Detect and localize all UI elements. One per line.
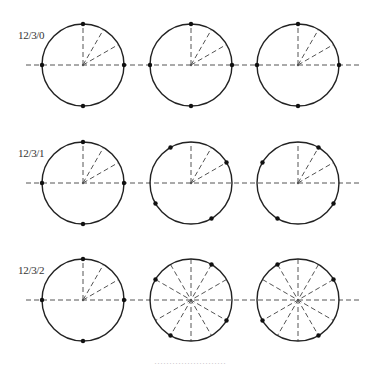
spoke-line <box>191 45 227 66</box>
marker-dot <box>122 298 126 302</box>
spoke-line <box>83 264 104 300</box>
spoke-line <box>298 29 319 65</box>
marker-dot <box>230 63 234 67</box>
marker-dot <box>153 201 157 205</box>
marker-dot <box>296 22 300 26</box>
center-point <box>82 299 84 301</box>
spoke-line <box>298 45 334 66</box>
spoke-line <box>83 45 119 66</box>
spoke-line <box>191 29 212 65</box>
marker-dot <box>189 104 193 108</box>
marker-dot <box>260 318 264 322</box>
marker-dot <box>148 63 152 67</box>
marker-dot <box>40 298 44 302</box>
spoke-line <box>191 163 227 184</box>
marker-dot <box>40 63 44 67</box>
marker-dot <box>81 257 85 261</box>
marker-dot <box>275 262 279 266</box>
marker-dot <box>260 160 264 164</box>
center-point <box>82 64 84 66</box>
marker-dot <box>153 277 157 281</box>
marker-dot <box>331 201 335 205</box>
marker-dot <box>81 140 85 144</box>
marker-dot <box>122 181 126 185</box>
marker-dot <box>168 333 172 337</box>
marker-dot <box>296 104 300 108</box>
row-label-2: 12/3/2 <box>18 264 44 276</box>
marker-dot <box>81 339 85 343</box>
center-point <box>297 299 299 301</box>
center-point <box>82 182 84 184</box>
marker-dot <box>316 145 320 149</box>
marker-dot <box>255 63 259 67</box>
spoke-line <box>83 29 104 65</box>
row-label-1: 12/3/1 <box>18 147 44 159</box>
center-point <box>190 299 192 301</box>
marker-dot <box>275 216 279 220</box>
marker-dot <box>40 181 44 185</box>
marker-dot <box>224 160 228 164</box>
spoke-line <box>83 163 119 184</box>
circle-diagram <box>0 0 371 366</box>
marker-dot <box>337 63 341 67</box>
marker-dot <box>122 63 126 67</box>
spoke-line <box>298 163 334 184</box>
marker-dot <box>81 22 85 26</box>
marker-dot <box>209 262 213 266</box>
row-label-0: 12/3/0 <box>18 29 44 41</box>
center-point <box>190 64 192 66</box>
center-point <box>190 182 192 184</box>
marker-dot <box>316 333 320 337</box>
spoke-line <box>191 147 212 183</box>
marker-dot <box>189 22 193 26</box>
spoke-line <box>298 147 319 183</box>
marker-dot <box>224 318 228 322</box>
marker-dot <box>331 277 335 281</box>
center-point <box>297 64 299 66</box>
marker-dot <box>81 222 85 226</box>
spoke-line <box>83 147 104 183</box>
marker-dot <box>81 104 85 108</box>
figure-caption: …………………… <box>40 356 340 366</box>
marker-dot <box>209 216 213 220</box>
spoke-line <box>83 280 119 301</box>
center-point <box>297 182 299 184</box>
marker-dot <box>168 145 172 149</box>
